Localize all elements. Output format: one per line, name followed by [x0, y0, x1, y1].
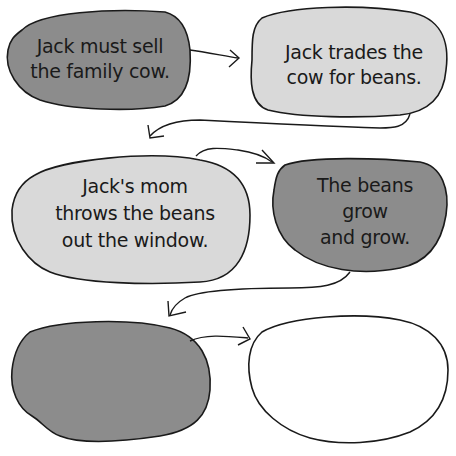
step-2-line-1: Jack trades the — [264, 40, 444, 65]
step-2-text: Jack trades the cow for beans. — [264, 40, 444, 90]
arrowhead-1-to-2 — [229, 50, 239, 67]
step-2-line-2: cow for beans. — [264, 65, 444, 90]
step-5-blob — [12, 322, 211, 442]
step-4-line-2: grow — [290, 198, 440, 224]
step-4-text: The beans grow and grow. — [290, 172, 440, 250]
step-4-line-1: The beans — [290, 172, 440, 198]
arrowhead-5-to-6 — [238, 327, 250, 345]
arrowhead-3-to-4 — [256, 150, 274, 163]
arrow-5-to-6 — [190, 336, 248, 341]
step-1-line-2: the family cow. — [20, 59, 180, 84]
step-1-line-1: Jack must sell — [20, 34, 180, 59]
step-4-line-3: and grow. — [290, 224, 440, 250]
step-6-blob — [249, 316, 448, 443]
arrow-3-to-4 — [196, 148, 272, 162]
step-3-line-3: out the window. — [20, 227, 250, 254]
step-3-line-1: Jack's mom — [20, 173, 250, 200]
step-3-text: Jack's mom throws the beans out the wind… — [20, 173, 250, 254]
step-1-text: Jack must sell the family cow. — [20, 34, 180, 84]
step-3-line-2: throws the beans — [20, 200, 250, 227]
